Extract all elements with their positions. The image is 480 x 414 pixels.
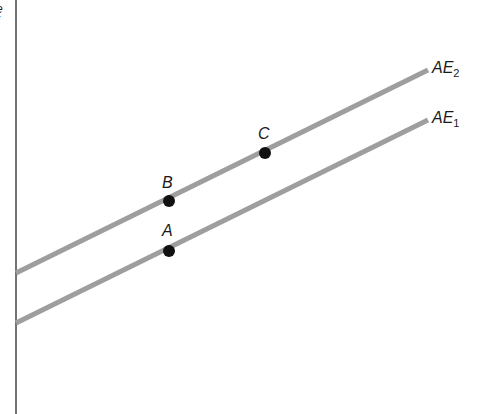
ae2-label: AE2 [432, 60, 459, 79]
ae1-line [16, 120, 428, 323]
diagram-canvas [0, 0, 480, 414]
ae2-label-sub: 2 [453, 67, 459, 79]
point-c-label: C [258, 126, 270, 142]
ae2-label-main: AE [432, 59, 453, 76]
point-c [259, 147, 271, 159]
ae1-label: AE1 [432, 110, 459, 129]
ae1-label-main: AE [432, 109, 453, 126]
ae2-line [16, 70, 428, 273]
axis-cut-label-1: e [0, 2, 3, 16]
point-a-label: A [162, 223, 173, 239]
ae1-label-sub: 1 [453, 117, 459, 129]
point-a [163, 245, 175, 257]
point-b [163, 195, 175, 207]
point-b-label: B [162, 175, 173, 191]
